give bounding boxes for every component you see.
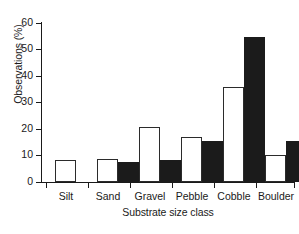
y-tick-30: 30 — [36, 102, 41, 103]
x-category-label-pebble: Pebble — [171, 190, 213, 203]
x-category-label-boulder: Boulder — [254, 190, 298, 203]
bar-chart-figure: Observations (%) 0 10 20 30 40 50 60 — [0, 0, 299, 234]
x-tick-3 — [172, 183, 173, 188]
bar-pebble-filled — [202, 141, 223, 182]
y-tick-20: 20 — [36, 129, 41, 130]
y-tick-label-60: 60 — [21, 16, 33, 29]
bar-cobble-filled — [244, 37, 265, 182]
bar-sand-open — [97, 159, 118, 182]
y-tick-10: 10 — [36, 155, 41, 156]
bar-boulder-filled — [286, 141, 299, 182]
bar-boulder-open — [265, 155, 286, 182]
x-tick-2 — [130, 183, 131, 188]
bar-gravel-filled — [160, 160, 181, 182]
x-tick-0 — [46, 183, 47, 188]
x-tick-5 — [256, 183, 257, 188]
x-tick-6 — [294, 183, 295, 188]
x-category-label-sand: Sand — [87, 190, 129, 203]
y-tick-0: 0 — [36, 182, 41, 183]
y-tick-50: 50 — [36, 49, 41, 50]
bar-gravel-open — [139, 127, 160, 182]
plot-area: 0 10 20 30 40 50 60 — [41, 22, 295, 183]
y-tick-label-10: 10 — [21, 148, 33, 161]
y-tick-label-50: 50 — [21, 42, 33, 55]
y-tick-label-20: 20 — [21, 122, 33, 135]
bar-sand-filled — [118, 162, 139, 182]
y-axis-line — [41, 22, 42, 183]
y-tick-40: 40 — [36, 76, 41, 77]
y-tick-60: 60 — [36, 23, 41, 24]
y-tick-label-40: 40 — [21, 69, 33, 82]
bar-cobble-open — [223, 87, 244, 182]
x-category-label-gravel: Gravel — [129, 190, 171, 203]
x-tick-1 — [88, 183, 89, 188]
y-tick-label-0: 0 — [27, 175, 33, 188]
y-tick-label-30: 30 — [21, 95, 33, 108]
x-category-label-silt: Silt — [45, 190, 87, 203]
x-category-label-cobble: Cobble — [213, 190, 255, 203]
bar-pebble-open — [181, 137, 202, 182]
x-axis-title: Substrate size class — [41, 206, 295, 218]
bar-silt-open — [55, 160, 76, 182]
x-tick-4 — [214, 183, 215, 188]
